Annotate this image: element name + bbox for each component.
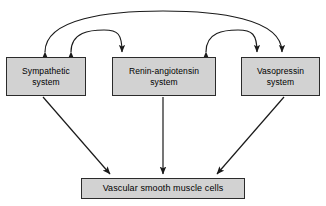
diagram-canvas: Sympathetic system Renin-angiotensin sys… xyxy=(0,0,326,206)
node-renin-angiotensin-system-label: Renin-angiotensin system xyxy=(127,66,201,88)
arrow-sympathetic-vascular-connector xyxy=(43,97,110,174)
node-vasopressin-system-label: Vasopressin system xyxy=(255,66,306,88)
node-renin-angiotensin-system: Renin-angiotensin system xyxy=(112,57,216,96)
node-vascular-smooth-muscle-cells: Vascular smooth muscle cells xyxy=(81,178,245,199)
arc-renin-vasopressin-connector xyxy=(206,30,257,52)
arc-sympathetic-vasopressin-connector xyxy=(45,11,282,52)
node-vasopressin-system: Vasopressin system xyxy=(241,57,320,96)
node-sympathetic-system-label: Sympathetic system xyxy=(20,66,72,88)
diagram-connectors-layer xyxy=(0,0,326,206)
arrow-vasopressin-vascular-connector xyxy=(217,97,284,174)
arc-sympathetic-renin-connector xyxy=(71,30,122,52)
node-vascular-smooth-muscle-cells-label: Vascular smooth muscle cells xyxy=(101,183,226,194)
node-sympathetic-system: Sympathetic system xyxy=(6,57,86,96)
